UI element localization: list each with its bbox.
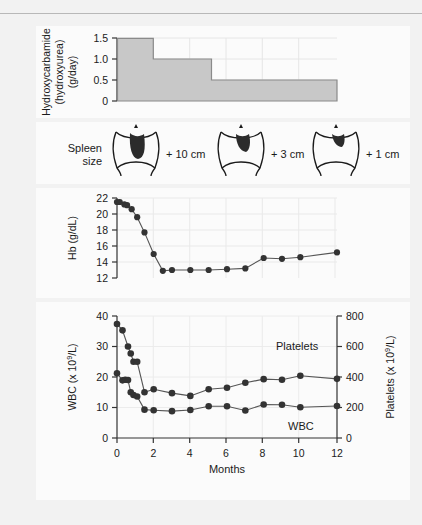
hb-point — [134, 214, 140, 220]
hb-point — [160, 268, 166, 274]
dose-y-axis-label: Hydroxycarbamide (hydroxyurea) (g/day) — [40, 28, 78, 116]
hb-point — [169, 267, 175, 273]
wbc-point — [224, 403, 231, 410]
counts-x-axis-label: Months — [209, 463, 246, 475]
dose-step-area — [118, 38, 338, 101]
hb-grid — [117, 198, 337, 278]
hb-y-axis — [112, 198, 117, 278]
spleen-label-line2: size — [82, 155, 102, 167]
spleen-row-label: Spleen size — [68, 142, 102, 167]
platelets-point — [127, 350, 134, 357]
spleen-panel: Spleen size + 10 cm + 3 — [36, 122, 410, 184]
spleen-shape-small — [332, 134, 345, 147]
wbc-ytick-30: 30 — [96, 340, 108, 352]
counts-left-axis — [112, 316, 117, 438]
counts-data-series — [114, 321, 341, 415]
dose-ylabel-line2: (hydroxyurea) — [53, 40, 65, 105]
platelets-point — [169, 390, 176, 397]
dose-ytick-10: 1.0 — [93, 53, 108, 65]
dose-y-axis — [112, 38, 117, 101]
wbc-ylabel-prefix: WBC (x 10 — [66, 360, 78, 411]
xtick-8: 8 — [259, 447, 265, 459]
platelets-point — [205, 386, 212, 393]
wbc-point — [260, 401, 267, 408]
spleen-value-3: + 1 cm — [366, 148, 399, 160]
wbc-ylabel-suffix: /L) — [66, 343, 78, 355]
platelets-point — [334, 376, 341, 383]
platelets-point — [224, 384, 231, 391]
platelets-point — [187, 393, 194, 400]
hb-point — [141, 229, 147, 235]
dose-y-tick-labels: 0 0.5 1.0 1.5 — [93, 32, 108, 107]
platelets-point — [260, 376, 267, 383]
hb-ytick-16: 16 — [96, 240, 108, 252]
counts-x-axis — [117, 438, 337, 443]
counts-panel: 0 10 20 30 40 WBC (x 109/L) 0 — [36, 302, 410, 500]
plt-ylabel-suffix: /L) — [384, 336, 396, 348]
wbc-point — [141, 406, 148, 413]
plt-ylabel-prefix: Platelets (x 10 — [384, 352, 396, 419]
hb-y-axis-label: Hb (g/dL) — [66, 216, 78, 260]
hb-panel: 12 14 16 18 20 22 Hb (g/dL) — [36, 188, 410, 298]
platelets-point — [125, 343, 132, 350]
wbc-point — [334, 403, 341, 410]
plt-ytick-0: 0 — [346, 432, 352, 444]
plt-ytick-800: 800 — [346, 310, 364, 322]
xtick-12: 12 — [331, 447, 343, 459]
xtick-6: 6 — [223, 447, 229, 459]
hb-data-series — [114, 199, 340, 274]
wbc-ytick-0: 0 — [102, 432, 108, 444]
plt-ytick-400: 400 — [346, 371, 364, 383]
platelets-point — [119, 327, 126, 334]
wbc-point — [242, 407, 249, 414]
plt-ytick-200: 200 — [346, 401, 364, 413]
hb-point — [297, 254, 303, 260]
platelets-point — [297, 372, 304, 379]
hb-point — [334, 249, 340, 255]
counts-x-tick-labels: 0 2 4 6 8 10 12 — [114, 447, 343, 459]
wbc-point — [125, 377, 132, 384]
platelets-point — [141, 389, 148, 396]
counts-left-tick-labels: 0 10 20 30 40 — [96, 310, 108, 444]
hb-point — [242, 265, 248, 271]
hb-point — [261, 255, 267, 261]
platelets-point — [114, 321, 121, 328]
wbc-point — [187, 407, 194, 414]
spleen-marker-triangle-icon — [239, 124, 243, 128]
hb-point — [224, 266, 230, 272]
platelets-point — [279, 376, 286, 383]
counts-left-axis-label: WBC (x 109/L) — [65, 343, 78, 410]
xtick-2: 2 — [150, 447, 156, 459]
spleen-shape-large — [130, 133, 145, 159]
wbc-point — [297, 404, 304, 411]
dose-ytick-0: 0 — [102, 95, 108, 107]
hb-point — [151, 251, 157, 257]
counts-right-tick-labels: 0 200 400 600 800 — [346, 310, 364, 444]
hb-ytick-12: 12 — [96, 272, 108, 284]
hb-point — [206, 267, 212, 273]
spleen-icon-3: + 1 cm — [313, 124, 399, 176]
counts-right-axis-label: Platelets (x 109/L) — [383, 336, 396, 419]
xtick-4: 4 — [187, 447, 193, 459]
wbc-point — [134, 393, 141, 400]
hb-line — [117, 202, 337, 271]
wbc-ytick-10: 10 — [96, 401, 108, 413]
spleen-marker-triangle-icon — [134, 124, 138, 128]
hb-ytick-18: 18 — [96, 224, 108, 236]
series-label-platelets: Platelets — [276, 340, 319, 352]
hb-point — [279, 256, 285, 262]
clinical-response-figure: 0 0.5 1.0 1.5 Hydroxycarbamide (hydroxyu… — [0, 0, 422, 525]
hb-chart-svg: 12 14 16 18 20 22 Hb (g/dL) — [36, 188, 410, 298]
hb-point — [129, 206, 135, 212]
counts-chart-svg: 0 10 20 30 40 WBC (x 109/L) 0 — [36, 302, 410, 500]
dose-ylabel-line1: Hydroxycarbamide — [40, 28, 52, 116]
hb-ytick-22: 22 — [96, 192, 108, 204]
wbc-ytick-20: 20 — [96, 371, 108, 383]
xtick-10: 10 — [293, 447, 305, 459]
dose-ytick-15: 1.5 — [93, 32, 108, 44]
svg-text:WBC (x 109/L): WBC (x 109/L) — [65, 343, 78, 410]
platelets-point — [150, 386, 157, 393]
spleen-icon-1: + 10 cm — [113, 124, 205, 176]
spleen-value-1: + 10 cm — [166, 148, 205, 160]
platelets-point — [134, 358, 141, 365]
